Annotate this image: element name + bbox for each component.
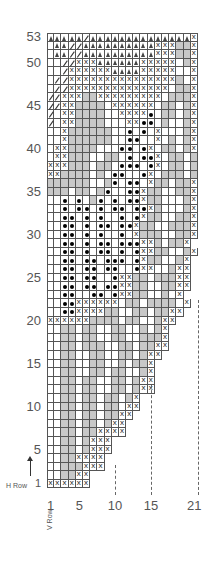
chart-cell — [54, 291, 61, 300]
chart-cell — [61, 480, 68, 489]
chart-cell — [119, 239, 126, 248]
chart-cell — [176, 171, 183, 180]
chart-cell — [105, 282, 112, 291]
chart-cell — [105, 128, 112, 137]
chart-cell — [69, 231, 76, 240]
chart-cell — [112, 385, 119, 394]
chart-cell — [83, 222, 90, 231]
chart-row — [47, 377, 198, 386]
chart-cell — [155, 231, 162, 240]
chart-cell — [105, 342, 112, 351]
chart-cell — [47, 102, 54, 111]
chart-cell — [162, 248, 169, 257]
chart-cell — [47, 291, 54, 300]
chart-cell — [119, 145, 126, 154]
chart-row — [47, 136, 198, 145]
chart-cell — [76, 171, 83, 180]
chart-cell — [90, 480, 97, 489]
chart-row — [47, 317, 198, 326]
chart-cell — [97, 342, 104, 351]
chart-cell — [176, 291, 183, 300]
chart-cell — [184, 153, 191, 162]
chart-cell — [184, 394, 191, 403]
chart-cell — [126, 454, 133, 463]
chart-cell — [191, 463, 198, 472]
chart-cell — [176, 437, 183, 446]
chart-cell — [54, 76, 61, 85]
chart-cell — [184, 325, 191, 334]
chart-cell — [184, 385, 191, 394]
chart-cell — [169, 128, 176, 137]
chart-cell — [97, 231, 104, 240]
chart-cell — [61, 274, 68, 283]
chart-cell — [97, 256, 104, 265]
chart-cell — [119, 308, 126, 317]
chart-cell — [169, 239, 176, 248]
chart-cell — [133, 239, 140, 248]
chart-cell — [140, 299, 147, 308]
chart-row — [47, 428, 198, 437]
chart-cell — [133, 231, 140, 240]
chart-cell — [105, 248, 112, 257]
chart-row — [47, 231, 198, 240]
chart-cell — [90, 334, 97, 343]
chart-cell — [176, 93, 183, 102]
chart-cell — [112, 446, 119, 455]
chart-cell — [119, 377, 126, 386]
chart-cell — [140, 119, 147, 128]
chart-cell — [155, 446, 162, 455]
chart-row — [47, 342, 198, 351]
chart-cell — [162, 454, 169, 463]
chart-cell — [90, 394, 97, 403]
chart-cell — [191, 351, 198, 360]
chart-cell — [54, 403, 61, 412]
chart-cell — [97, 325, 104, 334]
chart-cell — [47, 110, 54, 119]
chart-cell — [169, 265, 176, 274]
chart-cell — [54, 394, 61, 403]
chart-cell — [119, 256, 126, 265]
chart-row — [47, 153, 198, 162]
chart-cell — [47, 368, 54, 377]
chart-cell — [76, 454, 83, 463]
chart-cell — [169, 394, 176, 403]
chart-cell — [47, 420, 54, 429]
chart-cell — [90, 145, 97, 154]
chart-cell — [69, 265, 76, 274]
chart-cell — [69, 368, 76, 377]
chart-cell — [126, 446, 133, 455]
chart-cell — [105, 42, 112, 51]
chart-cell — [119, 153, 126, 162]
chart-cell — [112, 282, 119, 291]
chart-cell — [112, 317, 119, 326]
chart-cell — [126, 420, 133, 429]
chart-cell — [97, 248, 104, 257]
chart-cell — [61, 428, 68, 437]
chart-cell — [155, 360, 162, 369]
chart-cell — [47, 50, 54, 59]
chart-cell — [169, 274, 176, 283]
chart-cell — [176, 205, 183, 214]
chart-cell — [76, 153, 83, 162]
chart-cell — [47, 136, 54, 145]
chart-cell — [176, 76, 183, 85]
chart-cell — [105, 222, 112, 231]
chart-cell — [191, 256, 198, 265]
chart-cell — [105, 153, 112, 162]
chart-cell — [76, 368, 83, 377]
chart-cell — [105, 162, 112, 171]
chart-cell — [97, 102, 104, 111]
chart-cell — [119, 248, 126, 257]
chart-cell — [47, 394, 54, 403]
chart-cell — [133, 205, 140, 214]
chart-cell — [83, 265, 90, 274]
chart-cell — [155, 394, 162, 403]
chart-cell — [148, 119, 155, 128]
chart-cell — [69, 188, 76, 197]
chart-cell — [61, 222, 68, 231]
chart-cell — [105, 196, 112, 205]
chart-cell — [191, 274, 198, 283]
chart-cell — [76, 437, 83, 446]
chart-cell — [169, 428, 176, 437]
chart-cell — [155, 188, 162, 197]
